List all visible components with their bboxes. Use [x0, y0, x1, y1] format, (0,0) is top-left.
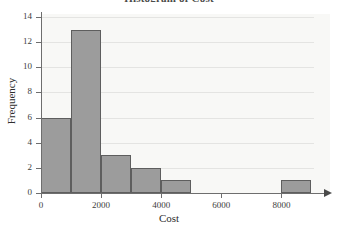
x-tick-mark	[221, 194, 222, 198]
histogram-bar	[131, 168, 161, 193]
y-tick-mark	[36, 42, 41, 43]
x-tick-mark	[101, 194, 102, 198]
x-tick-mark	[41, 194, 42, 198]
y-tick-label: 2	[12, 163, 32, 172]
chart-title: Histogram of Cost	[0, 0, 338, 2]
histogram-figure: Histogram of Cost 02468101214 0200040006…	[0, 0, 338, 232]
y-tick-mark	[36, 17, 41, 18]
x-tick-label: 0	[21, 200, 61, 210]
histogram-bar	[71, 30, 101, 193]
gridline	[42, 17, 314, 18]
x-tick-mark	[281, 194, 282, 198]
x-axis-arrow-icon	[324, 189, 332, 197]
histogram-bar	[41, 118, 71, 193]
y-tick-label: 0	[12, 188, 32, 197]
y-tick-mark	[36, 67, 41, 68]
x-axis-title: Cost	[0, 212, 338, 224]
y-axis-title: Frequency	[5, 56, 17, 146]
y-tick-mark	[36, 168, 41, 169]
y-tick-mark	[36, 143, 41, 144]
histogram-bar	[161, 180, 191, 193]
x-axis-line	[41, 193, 326, 194]
y-tick-mark	[36, 92, 41, 93]
y-axis-line	[41, 12, 42, 194]
y-tick-label: 12	[12, 37, 32, 46]
x-tick-label: 6000	[201, 200, 241, 210]
x-tick-label: 4000	[141, 200, 181, 210]
histogram-bar	[281, 180, 311, 193]
y-tick-mark	[36, 118, 41, 119]
x-tick-label: 2000	[81, 200, 121, 210]
histogram-bar	[101, 155, 131, 193]
x-tick-label: 8000	[261, 200, 301, 210]
x-tick-mark	[161, 194, 162, 198]
y-tick-label: 14	[12, 12, 32, 21]
